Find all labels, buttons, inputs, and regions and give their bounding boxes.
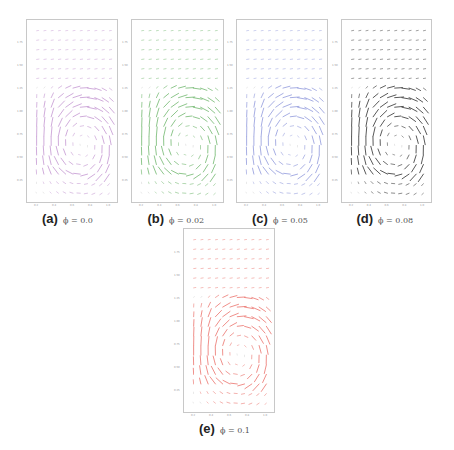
x-tick-label: 0.6 bbox=[176, 204, 180, 207]
vector-arrow bbox=[226, 371, 230, 374]
vector-arrow bbox=[166, 158, 171, 164]
vector-arrow bbox=[376, 158, 381, 164]
vector-arrow bbox=[380, 86, 385, 89]
vector-arrow bbox=[179, 104, 187, 107]
vector-arrow bbox=[179, 173, 186, 174]
vector-arrow bbox=[365, 146, 366, 155]
vector-arrow bbox=[373, 127, 375, 136]
vector-arrow bbox=[107, 155, 109, 164]
vector-arrow bbox=[266, 326, 271, 334]
vector-arrow bbox=[310, 184, 313, 186]
vector-arrow bbox=[243, 365, 245, 366]
vector-arrow bbox=[312, 126, 316, 133]
vector-arrow bbox=[213, 356, 215, 365]
vector-arrow bbox=[269, 168, 276, 174]
vector-arrow bbox=[259, 336, 263, 343]
vector-arrow bbox=[374, 168, 381, 174]
vector-arrow bbox=[53, 167, 58, 174]
vector-arrow bbox=[373, 101, 379, 107]
vector-arrow bbox=[378, 192, 381, 193]
x-tick-label: 0.8 bbox=[194, 204, 198, 207]
vector-arrow bbox=[213, 391, 215, 393]
vector-arrow bbox=[388, 173, 395, 174]
vector-arrow bbox=[148, 182, 149, 184]
vector-arrow bbox=[109, 126, 112, 134]
vector-arrow bbox=[70, 182, 73, 183]
vector-arrow bbox=[77, 164, 81, 165]
vector-arrow bbox=[206, 193, 208, 195]
vector-arrow bbox=[210, 174, 215, 181]
vector-arrow bbox=[388, 133, 390, 136]
vector-arrow bbox=[215, 337, 217, 346]
y-tick-label: 1.75 bbox=[332, 41, 338, 44]
vector-arrow bbox=[312, 107, 319, 113]
vector-arrow bbox=[73, 133, 75, 136]
vector-arrow bbox=[63, 149, 65, 155]
vector-arrow bbox=[423, 98, 427, 102]
vector-arrow bbox=[366, 99, 369, 107]
vector-arrow bbox=[220, 359, 222, 365]
vector-arrow bbox=[164, 86, 167, 88]
vector-arrow bbox=[212, 165, 216, 173]
y-tick-label: 0.50 bbox=[332, 156, 338, 159]
vector-arrow bbox=[66, 130, 68, 136]
vector-arrow bbox=[305, 88, 311, 90]
quiver-plot bbox=[237, 20, 329, 204]
vector-arrow bbox=[252, 326, 259, 331]
vector-arrow bbox=[141, 192, 142, 193]
vector-arrow bbox=[423, 107, 428, 113]
vector-arrow bbox=[207, 391, 208, 393]
vector-arrow bbox=[211, 366, 215, 374]
y-tick-label: 1.50 bbox=[17, 64, 23, 67]
y-tick-label: 1.75 bbox=[174, 251, 180, 254]
y-tick-label: 0.50 bbox=[122, 156, 128, 159]
y-tick-label: 1.50 bbox=[174, 274, 180, 277]
vector-arrow bbox=[95, 136, 97, 140]
vector-arrow bbox=[305, 126, 309, 130]
vector-arrow bbox=[253, 146, 254, 155]
vector-arrow bbox=[172, 170, 179, 174]
vector-arrow bbox=[381, 170, 388, 174]
vector-arrow bbox=[213, 155, 215, 164]
vector-arrow bbox=[51, 117, 53, 126]
y-tick-label: 1.50 bbox=[122, 64, 128, 67]
vector-arrow bbox=[365, 182, 366, 184]
vector-arrow bbox=[171, 102, 178, 107]
vector-arrow bbox=[296, 155, 298, 156]
vector-arrow bbox=[230, 313, 238, 316]
vector-arrow bbox=[254, 374, 259, 381]
vector-arrow bbox=[230, 323, 237, 327]
caption-equation: ϕ = 0.05 bbox=[273, 216, 308, 225]
vector-arrow bbox=[230, 296, 237, 298]
vector-arrow bbox=[223, 303, 230, 307]
vector-arrow bbox=[208, 296, 210, 298]
vector-arrow bbox=[175, 192, 178, 193]
vector-arrow bbox=[190, 184, 193, 185]
vector-arrow bbox=[266, 146, 268, 155]
vector-arrow bbox=[102, 117, 108, 124]
vector-arrow bbox=[164, 127, 166, 136]
vector-arrow bbox=[216, 378, 223, 384]
vector-arrow bbox=[80, 116, 86, 117]
vector-arrow bbox=[193, 88, 201, 89]
vector-arrow bbox=[388, 104, 396, 107]
vector-arrow bbox=[203, 165, 208, 172]
vector-arrow bbox=[405, 165, 409, 169]
vector-arrow bbox=[201, 88, 207, 90]
vector-arrow bbox=[223, 329, 227, 335]
vector-arrow bbox=[171, 86, 176, 89]
vector-arrow bbox=[149, 108, 150, 117]
vector-arrow bbox=[238, 384, 245, 386]
vector-arrow bbox=[312, 88, 316, 90]
vector-arrow bbox=[171, 93, 178, 97]
vector-arrow bbox=[168, 182, 171, 184]
vector-arrow bbox=[198, 184, 201, 186]
x-tick-label: 1.0 bbox=[316, 204, 320, 207]
vector-arrow bbox=[351, 192, 352, 193]
vector-arrow bbox=[81, 174, 88, 176]
vector-arrow bbox=[198, 193, 201, 194]
y-tick-label: 0.25 bbox=[332, 179, 338, 182]
vector-arrow bbox=[43, 192, 44, 193]
vector-arrow bbox=[359, 94, 360, 98]
vector-arrow bbox=[414, 155, 416, 163]
